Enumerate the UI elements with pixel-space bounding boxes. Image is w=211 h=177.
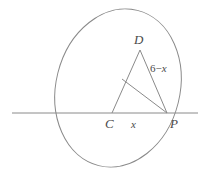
- circle-outline: [38, 0, 197, 177]
- vertex-label-c: C: [105, 117, 114, 130]
- measure-dp-variable: x: [162, 62, 167, 74]
- measure-label-dp: 6−x: [150, 63, 167, 74]
- geometry-figure: D C P x 6−x: [0, 0, 211, 177]
- segment-dp: [140, 50, 167, 113]
- vertex-label-p: P: [170, 117, 178, 130]
- measure-label-cp: x: [131, 119, 136, 130]
- vertex-label-d: D: [134, 33, 143, 46]
- geometry-canvas: [0, 0, 211, 177]
